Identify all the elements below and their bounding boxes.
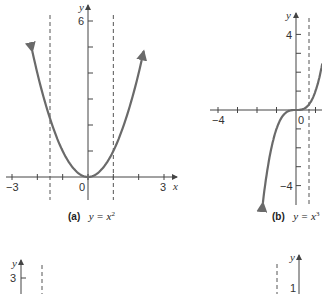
x-tick-label: 0	[298, 114, 304, 126]
x-tick-label: −3	[6, 181, 19, 193]
panel-b: −4 0 y 4 −4 (b) y = x3	[210, 9, 322, 223]
caption-a: (a) y = x2	[68, 206, 115, 223]
y-tick-label: 4	[286, 29, 292, 41]
x-tick-label: 3	[160, 181, 166, 193]
panel-d: y 1	[277, 251, 299, 294]
x-tick-label: −4	[212, 114, 225, 126]
panel-a: −3 0 3 x y 6 (a) y = x2	[6, 1, 178, 223]
y-axis-label: y	[78, 1, 84, 13]
caption-b: (b) y = x3	[272, 206, 320, 223]
y-axis-label: y	[11, 257, 17, 269]
y-tick-label: 3	[10, 272, 16, 284]
y-axis-label: y	[285, 9, 291, 21]
dashed-lines	[50, 15, 113, 200]
y-ticks	[88, 21, 93, 151]
y-tick-label: 1	[290, 282, 296, 294]
y-tick-label: −4	[280, 180, 293, 192]
y-tick-label: 6	[78, 15, 84, 27]
x-tick-label: 0	[79, 181, 85, 193]
figure-canvas: −3 0 3 x y 6 (a) y = x2 −4 0 y 4 −4 (b) …	[0, 0, 322, 294]
panel-c: y 3	[10, 257, 42, 294]
y-axis-label: y	[289, 251, 295, 263]
x-axis-label: x	[172, 180, 178, 192]
